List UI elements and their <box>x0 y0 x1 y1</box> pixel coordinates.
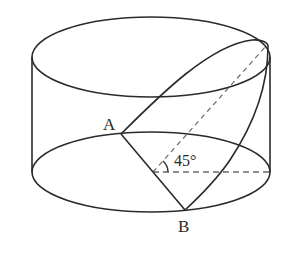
section-curve-upper <box>121 40 268 134</box>
label-a: A <box>103 115 116 134</box>
angle-arc <box>163 161 168 172</box>
section-curve-lower <box>185 46 268 210</box>
label-b: B <box>178 217 189 236</box>
top-ellipse <box>32 17 270 97</box>
cylinder-diagram: A B 45° <box>0 0 292 254</box>
label-angle: 45° <box>174 152 196 169</box>
dashed-diagonal <box>153 45 267 172</box>
